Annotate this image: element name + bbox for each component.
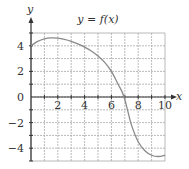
x-tick-label: 4	[81, 99, 88, 112]
x-tick-label: 6	[108, 99, 115, 112]
y-axis-arrow-icon	[29, 17, 34, 23]
y-tick-label: −4	[8, 142, 24, 155]
x-tick-label: 10	[158, 99, 172, 112]
chart-title: y = f(x)	[76, 13, 118, 26]
x-axis-label: x	[176, 90, 183, 103]
x-tick-label: 8	[135, 99, 142, 112]
x-tick-label: 2	[54, 99, 61, 112]
axes	[29, 17, 178, 161]
y-tick-label: 4	[17, 40, 24, 53]
y-tick-label: 0	[17, 91, 24, 104]
y-tick-label: −2	[8, 117, 24, 130]
function-plot: 246810420−2−4 y = f(x) x y	[0, 0, 189, 169]
y-tick-label: 2	[17, 65, 24, 78]
y-axis-label: y	[26, 3, 34, 16]
